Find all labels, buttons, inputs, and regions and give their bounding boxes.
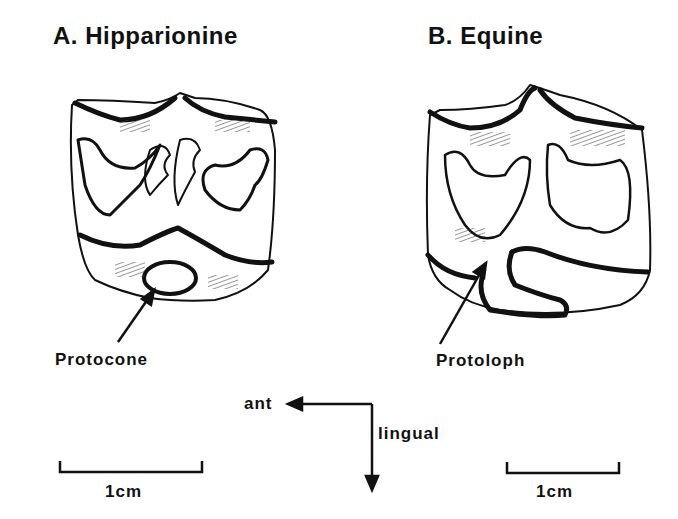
hipparionine-tooth <box>71 93 275 301</box>
lingual-direction-label: lingual <box>378 424 440 444</box>
scale-bars <box>60 461 619 473</box>
orientation-arrows <box>288 398 378 490</box>
protoloph-label: Protoloph <box>436 351 525 371</box>
tooth-drawings <box>0 0 678 519</box>
anterior-direction-label: ant <box>244 394 273 414</box>
scale-label-b: 1cm <box>536 482 573 502</box>
equine-tooth <box>427 85 650 316</box>
pointer-arrows <box>118 263 486 344</box>
scale-label-a: 1cm <box>105 482 142 502</box>
protocone-label: Protocone <box>55 350 148 370</box>
